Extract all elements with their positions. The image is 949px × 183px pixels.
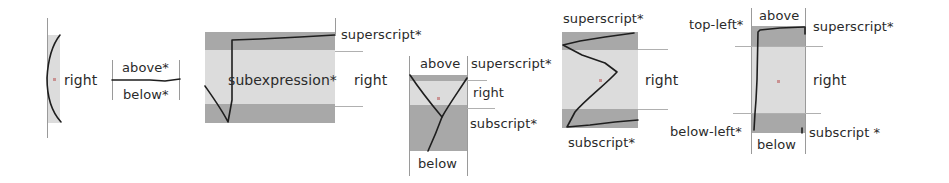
label-subscript: subscript * <box>809 126 880 140</box>
center-dot <box>777 80 780 83</box>
label-below: below <box>757 138 796 152</box>
label-right: right <box>813 73 846 87</box>
integral-stroke <box>0 0 949 183</box>
label-below-left: below-left* <box>670 125 742 139</box>
label-above: above <box>759 9 799 23</box>
label-superscript: superscript* <box>813 20 894 34</box>
label-top-left: top-left* <box>689 18 743 32</box>
